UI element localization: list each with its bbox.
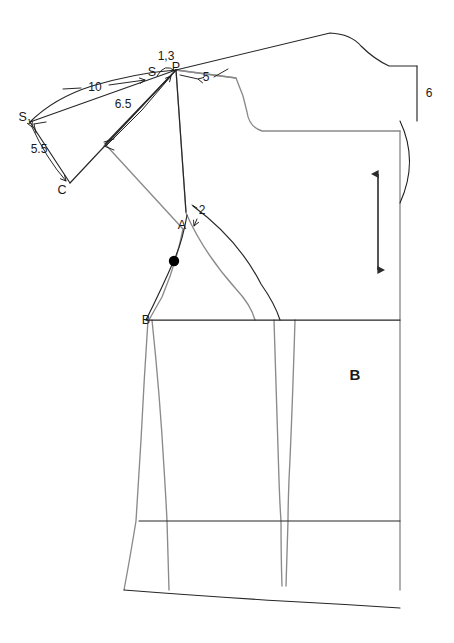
measurement-label-10: 10 [88, 80, 102, 94]
pattern-diagram-canvas: S P S1 C A B 10 1,3 5 6.5 5.5 2 6 B [0, 0, 454, 643]
balance-notch-dot [169, 256, 179, 266]
bodice-panel-outline [105, 70, 400, 590]
leader-10 [63, 80, 145, 89]
front-princess-seam-gray [152, 320, 169, 590]
brace-6 [400, 121, 410, 203]
neckline-inner-gray [176, 70, 400, 131]
point-label-S1-base: S [19, 110, 27, 124]
measurement-label-group: 10 1,3 5 6.5 5.5 2 6 [31, 49, 433, 217]
panel-label-B: B [350, 366, 361, 383]
measurement-label-6-5: 6.5 [115, 97, 132, 111]
sleeve-underarm-gray [105, 144, 183, 229]
measurement-label-6: 6 [426, 86, 433, 100]
dart-right-leg-gray [286, 320, 295, 586]
pattern-draft-svg: S P S1 C A B 10 1,3 5 6.5 5.5 2 6 B [0, 0, 454, 643]
tick-s1-corner [34, 122, 46, 133]
construction-lines [30, 33, 417, 608]
measurement-label-2: 2 [199, 203, 206, 217]
armhole-guide-gray [176, 70, 255, 320]
point-label-A: A [178, 218, 187, 232]
point-label-C: C [57, 183, 66, 197]
bodice-front-edge-black [176, 70, 186, 212]
point-label-S: S [148, 65, 156, 79]
measurement-label-1-3: 1,3 [158, 49, 175, 63]
dart-left-leg-gray [274, 320, 282, 586]
point-label-S1-subscript: 1 [27, 117, 32, 126]
measurement-label-5-5: 5.5 [31, 142, 48, 156]
underarm-seam-gray [149, 229, 183, 320]
point-label-B: B [142, 313, 150, 327]
measurement-label-5: 5 [203, 70, 210, 84]
armhole-curve-black [193, 206, 280, 320]
point-label-S1: S1 [19, 110, 32, 126]
hem-line-black [124, 590, 400, 608]
side-seam-gray [124, 320, 148, 590]
shoulder-line-black [176, 33, 417, 70]
